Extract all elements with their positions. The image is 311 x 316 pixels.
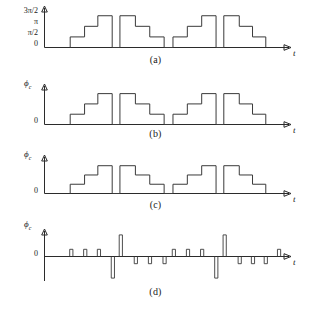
impulse (223, 235, 226, 257)
panel-d-ytick-zero: 0 (2, 249, 38, 258)
panel-c-yaxis-label: ϕc (24, 149, 31, 161)
panel-c-waveform (70, 166, 266, 194)
panel-d-yaxis-label: ϕc (24, 219, 31, 231)
panel-c-caption: (c) (0, 199, 311, 210)
impulse (215, 257, 218, 279)
impulse (163, 257, 166, 264)
panel-a-caption: (a) (0, 54, 311, 65)
impulse (148, 257, 151, 264)
panel-c-ytick-zero: 0 (2, 186, 38, 195)
panel-b-waveform (70, 94, 266, 125)
impulse (238, 257, 241, 264)
impulse (172, 249, 175, 256)
impulse (277, 249, 280, 256)
impulse (201, 249, 204, 256)
panel-b-yaxis-subscript: c (29, 84, 32, 90)
panel-a-waveform (70, 16, 266, 48)
panel-a-axes (42, 6, 291, 50)
impulse (111, 257, 114, 279)
impulse (119, 235, 122, 257)
impulse (70, 249, 73, 256)
panel-b-caption: (b) (0, 128, 311, 139)
impulse (97, 249, 100, 256)
panel-a-ytick-pi2: π/2 (2, 28, 38, 37)
panel-c-axes (42, 155, 291, 196)
panel-d-xaxis-label: t (293, 257, 296, 267)
panel-b-ytick-zero: 0 (2, 116, 38, 125)
impulse (134, 257, 137, 264)
impulse (84, 249, 87, 256)
panel-d-caption: (d) (0, 286, 311, 297)
panel-b-axes (42, 84, 291, 127)
panel-a-ytick-pi: π (2, 17, 38, 26)
impulse (251, 257, 254, 264)
impulse (264, 257, 267, 264)
panel-d: ϕc 0 t (0, 217, 311, 316)
panel-d-plot (0, 217, 311, 316)
panel-d-yaxis-subscript: c (29, 225, 32, 231)
panel-b-yaxis-label: ϕc (24, 78, 31, 90)
phase-waveform-figure: 3π/2 π π/2 0 t (a) ϕc 0 t (b) (0, 0, 311, 316)
panel-a-ytick-zero: 0 (2, 39, 38, 48)
impulse (186, 249, 189, 256)
panel-c-yaxis-subscript: c (29, 155, 32, 161)
panel-a-ytick-3pi2: 3π/2 (2, 6, 38, 15)
panel-d-axes (42, 229, 291, 281)
